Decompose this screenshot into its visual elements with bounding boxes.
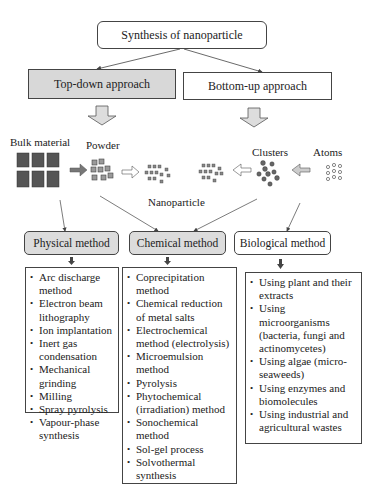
list-item: Phytochemical (irradiation) method: [127, 390, 233, 416]
list-item: Milling: [30, 390, 115, 403]
physical-method-box: Physical method: [24, 231, 119, 255]
list-item: Pyrolysis: [127, 377, 233, 390]
list-item: Microemulsion method: [127, 350, 233, 376]
list-item: Spray pyrolysis: [30, 403, 115, 416]
top-down-label: Top-down approach: [54, 77, 150, 92]
bottom-up-approach-box: Bottom-up approach: [183, 72, 332, 100]
biological-method-box: Biological method: [234, 231, 331, 255]
atoms-label: Atoms: [313, 146, 342, 158]
clusters-icon: [257, 161, 280, 187]
clusters-label: Clusters: [252, 146, 288, 158]
list-item: Using enzymes and biomolecules: [250, 382, 358, 408]
arrow-right-icon: [122, 166, 139, 178]
chemical-method-label: Chemical method: [137, 237, 218, 249]
list-item: Electron beam lithography: [30, 297, 115, 323]
arrow-left-icon: [233, 164, 251, 176]
chemical-methods-list: Coprecipitation method Chemical reductio…: [122, 267, 237, 484]
list-item: Coprecipitation method: [127, 271, 233, 297]
chemical-method-box: Chemical method: [129, 231, 226, 255]
biological-methods-list: Using plant and their extracts Using mic…: [245, 272, 362, 444]
list-item: Inert gas condensation: [30, 337, 115, 363]
list-item: Using algae (micro-seaweeds): [250, 355, 358, 381]
list-item: Sol-gel process: [127, 443, 233, 456]
list-item: Electrochemical method (electrolysis): [127, 324, 233, 350]
top-down-approach-box: Top-down approach: [28, 69, 176, 99]
list-item: Using microorganisms (bacteria, fungi an…: [250, 302, 358, 355]
title-box: Synthesis of nanoparticle: [97, 21, 267, 49]
list-item: Using industrial and agricultural wastes: [250, 408, 358, 434]
bulk-material-label: Bulk material: [10, 136, 70, 148]
list-item: Arc discharge method: [30, 271, 115, 297]
biological-method-label: Biological method: [240, 237, 325, 249]
list-item: Sonochemical method: [127, 416, 233, 442]
nanoparticle-label: Nanoparticle: [148, 196, 205, 208]
list-item: Using plant and their extracts: [250, 276, 358, 302]
bulk-material-icon: [17, 153, 59, 187]
physical-method-label: Physical method: [33, 237, 109, 249]
nanoparticle-icon: [145, 165, 170, 183]
powder-label: Powder: [86, 139, 120, 151]
down-arrow-icon: [88, 106, 268, 127]
arrow-right-icon: [70, 164, 87, 176]
nanoparticle-icon: [199, 164, 223, 182]
list-item: Chemical reduction of metal salts: [127, 297, 233, 323]
page-title: Synthesis of nanoparticle: [121, 28, 242, 43]
physical-methods-list: Arc discharge method Electron beam litho…: [25, 267, 119, 413]
list-item: Mechanical grinding: [30, 363, 115, 389]
powder-icon: [91, 159, 113, 180]
list-item: Vapour-phase synthesis: [30, 416, 115, 442]
atoms-icon: [326, 163, 341, 180]
arrow-left-icon: [292, 164, 310, 176]
bottom-up-label: Bottom-up approach: [208, 79, 307, 94]
list-item: Ion implantation: [30, 324, 115, 337]
list-item: Solvothermal synthesis: [127, 456, 233, 482]
